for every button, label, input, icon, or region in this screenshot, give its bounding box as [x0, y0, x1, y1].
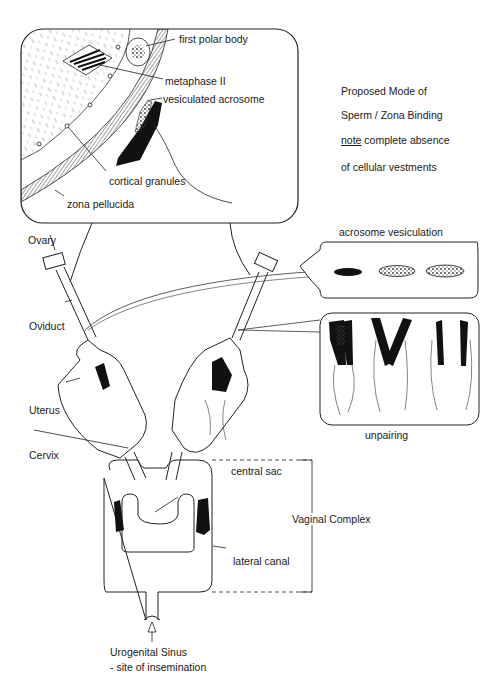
- label-unpairing: unpairing: [365, 429, 408, 441]
- label-first-polar-body: first polar body: [179, 33, 248, 45]
- label-metaphase-ii: metaphase II: [165, 75, 226, 87]
- title-line-1: Proposed Mode of: [341, 85, 427, 97]
- unpairing-inset: [320, 313, 479, 425]
- label-oviduct: Oviduct: [29, 320, 65, 332]
- acrosome-vesiculation-inset: [300, 242, 478, 298]
- note-emphasis: note: [341, 134, 361, 146]
- sperm-pair-right-vagina: [196, 498, 210, 535]
- title-line-4: of cellular vestments: [341, 161, 437, 173]
- label-urogenital-sinus: Urogenital Sinus: [110, 646, 187, 658]
- sperm-pair-right-uterus: [212, 357, 232, 392]
- title-line-2: Sperm / Zona Binding: [341, 109, 443, 121]
- label-lateral-canal: lateral canal: [233, 555, 290, 567]
- title-line-3: note complete absence: [341, 134, 450, 146]
- label-zona-pellucida: zona pellucida: [67, 198, 134, 210]
- label-central-sac: central sac: [231, 465, 282, 477]
- vaginal-complex: [104, 460, 212, 620]
- label-cortical-granules: cortical granules: [109, 175, 185, 187]
- label-vesiculated-acrosome: vesiculated acrosome: [163, 93, 265, 105]
- label-ovary: Ovary: [28, 234, 56, 246]
- label-uterus: Uterus: [29, 404, 60, 416]
- label-site-of-insemination: - site of insemination: [110, 661, 206, 673]
- left-reproductive-tract: [43, 253, 147, 480]
- label-acrosome-vesiculation: acrosome vesiculation: [339, 226, 443, 238]
- vaginal-complex-bracket: [212, 460, 312, 592]
- sperm-left-uterus: [95, 363, 110, 390]
- label-vaginal-complex: Vaginal Complex: [290, 513, 373, 525]
- insemination-arrow-icon: [148, 622, 156, 642]
- label-cervix: Cervix: [29, 449, 59, 461]
